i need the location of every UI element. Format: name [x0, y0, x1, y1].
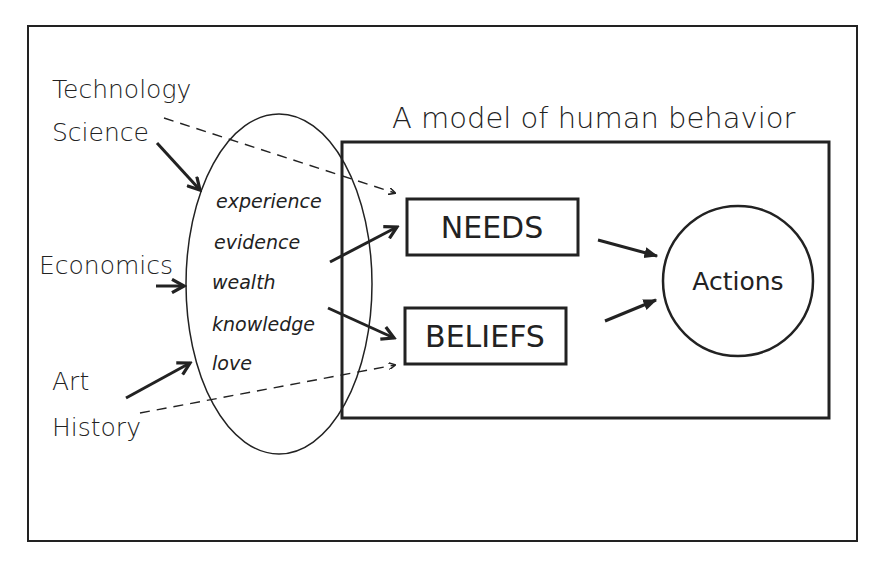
needs-label: NEEDS — [441, 210, 544, 245]
mediator-knowledge: knowledge — [212, 313, 315, 335]
arrow-needs-actions — [598, 240, 657, 256]
arrow-technology-needs — [164, 118, 395, 193]
arrow-mediators-beliefs — [328, 308, 394, 338]
arrow-mediators-needs — [330, 227, 397, 262]
mediator-experience: experience — [216, 190, 322, 212]
arrow-science-mediators — [157, 143, 200, 190]
label-science: Science — [52, 118, 149, 147]
label-economics: Economics — [39, 251, 173, 280]
diagram-canvas: A model of human behavior Technology Sci… — [0, 0, 890, 573]
arrow-beliefs-actions — [605, 300, 656, 321]
actions-label: Actions — [692, 267, 783, 296]
mediator-love: love — [212, 352, 252, 374]
diagram-title: A model of human behavior — [392, 101, 795, 135]
arrow-history-beliefs — [140, 365, 395, 413]
label-art: Art — [52, 367, 89, 396]
mediator-evidence: evidence — [214, 231, 300, 253]
beliefs-label: BELIEFS — [425, 319, 545, 354]
label-technology: Technology — [52, 75, 191, 104]
arrow-art-mediators — [126, 363, 190, 398]
label-history: History — [52, 413, 141, 442]
mediator-wealth: wealth — [212, 271, 276, 293]
